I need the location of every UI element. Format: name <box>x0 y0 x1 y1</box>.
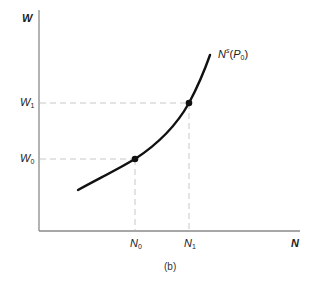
figure-caption: (b) <box>164 262 176 272</box>
x-axis-title: N <box>291 238 299 249</box>
point-n1-w1 <box>186 100 193 107</box>
y-tick-w1: W1 <box>20 97 34 109</box>
x-tick-n1: N1 <box>184 238 196 250</box>
point-n0-w0 <box>132 156 139 163</box>
chart-canvas <box>0 0 320 285</box>
x-tick-n0: N0 <box>130 238 142 250</box>
y-axis-title: W <box>22 13 32 24</box>
y-tick-w0: W0 <box>20 153 34 165</box>
curve-label: Ns(P0) <box>218 47 248 61</box>
supply-curve <box>78 55 210 190</box>
